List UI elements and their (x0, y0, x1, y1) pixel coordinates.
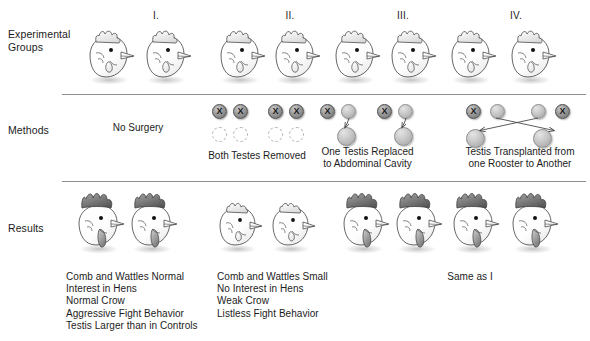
testis-removed-marker-2a: X (212, 104, 227, 119)
group-numeral-2: II. (270, 10, 310, 21)
result-text-group2: Comb and Wattles Small No Interest in He… (217, 271, 377, 320)
x-mark-icon: X (234, 105, 247, 118)
rooster-head-result4-a (441, 192, 503, 254)
arrow-down-icon-3a (335, 117, 357, 131)
x-mark-icon: X (290, 105, 303, 118)
row-label-methods: Methods (8, 124, 49, 137)
testis-absent-outline-2c (268, 127, 283, 142)
method-caption-group1: No Surgery (78, 122, 198, 134)
group-numeral-1: I. (136, 10, 176, 21)
divider-methods-top (62, 94, 586, 95)
chicken-head-group1-a (76, 25, 138, 87)
x-mark-icon: X (213, 105, 226, 118)
group-numeral-4: IV. (496, 10, 536, 21)
chicken-head-group2-b (262, 25, 324, 87)
group-numeral-3: III. (383, 10, 423, 21)
x-mark-icon: X (321, 105, 334, 118)
chicken-head-group3-b (378, 25, 440, 87)
testis-absent-outline-2b (233, 127, 248, 142)
testis-absent-outline-2a (212, 127, 227, 142)
method-caption-group2: Both Testes Removed (202, 150, 312, 162)
testis-absent-outline-2d (289, 127, 304, 142)
x-mark-icon: X (378, 105, 391, 118)
x-mark-icon: X (269, 105, 282, 118)
testis-removed-marker-2b: X (233, 104, 248, 119)
chicken-head-group2-a (207, 25, 269, 87)
testis-removed-marker-3b: X (377, 104, 392, 119)
method-caption-group3: One Testis Replaced to Abdominal Cavity (310, 146, 425, 169)
rooster-head-result1-b (119, 192, 181, 254)
testis-removed-marker-2d: X (289, 104, 304, 119)
chicken-head-group1-b (133, 25, 195, 87)
arrow-down-icon-3b (392, 117, 414, 131)
rooster-head-result4-b (500, 192, 562, 254)
hen-head-result2-b (258, 194, 320, 256)
chicken-head-group4-b (498, 25, 560, 87)
rooster-head-result3-b (384, 192, 446, 254)
experiment-figure: Experimental Groups Methods Results I. I… (0, 0, 590, 341)
chicken-head-group3-a (322, 25, 384, 87)
testis-removed-marker-2c: X (268, 104, 283, 119)
arrow-cross-icons-group4 (462, 116, 572, 136)
divider-results-top (62, 181, 586, 182)
row-label-results: Results (8, 222, 44, 235)
method-caption-group4: Testis Transplanted from one Rooster to … (455, 146, 585, 169)
result-text-group1: Comb and Wattles Normal Interest in Hens… (66, 271, 226, 332)
result-text-same-as-one: Same as I (410, 271, 530, 283)
chicken-head-group4-a (438, 25, 500, 87)
testis-removed-marker-3a: X (320, 104, 335, 119)
row-label-experimental-groups: Experimental Groups (8, 28, 70, 53)
